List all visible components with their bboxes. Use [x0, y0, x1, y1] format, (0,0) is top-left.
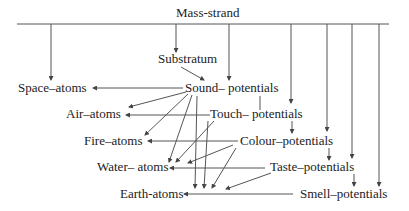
arrow-substratum-to-sound: [181, 67, 204, 80]
diagram-svg: Mass-strand Substratum Sound– potentials…: [0, 0, 409, 211]
arrow-sound-to-earth: [195, 96, 197, 188]
arrow-taste-to-earth: [226, 173, 271, 189]
node-mass-strand: Mass-strand: [176, 5, 240, 20]
node-air-atoms: Air–atoms: [66, 106, 121, 121]
node-colour-potentials: Colour–potentials: [240, 133, 333, 148]
node-touch-potentials: Touch– potentials: [210, 106, 303, 121]
node-water-atoms: Water– atoms: [97, 159, 169, 174]
node-sound-potentials: Sound– potentials: [185, 80, 279, 95]
node-fire-atoms: Fire–atoms: [84, 133, 143, 148]
node-earth-atoms: Earth-atoms: [120, 186, 184, 201]
node-taste-potentials: Taste–potentials: [270, 159, 354, 174]
node-space-atoms: Space–atoms: [18, 80, 87, 95]
node-substratum: Substratum: [158, 51, 217, 66]
arrow-sound-to-water: [169, 95, 192, 162]
evolution-diagram: Mass-strand Substratum Sound– potentials…: [0, 0, 409, 211]
arrow-colour-to-water: [188, 145, 233, 163]
node-smell-potentials: Smell–potentials: [300, 186, 387, 201]
